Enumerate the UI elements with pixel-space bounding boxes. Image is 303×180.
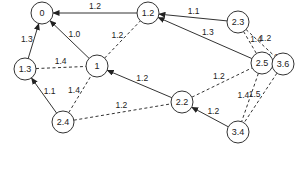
node-label: 0 bbox=[39, 8, 44, 18]
edge-1-to-0 bbox=[50, 21, 89, 59]
edge-weight-label: 1.5 bbox=[249, 89, 261, 99]
node-2.2: 2.2 bbox=[171, 91, 193, 113]
node-label: 3.6 bbox=[277, 59, 290, 69]
node-2.3: 2.3 bbox=[227, 11, 249, 33]
edge-weight-label: 1.2 bbox=[115, 100, 127, 110]
node-0: 0 bbox=[31, 2, 53, 24]
edge-weight-label: 1.1 bbox=[44, 86, 56, 96]
edge-weight-label: 1.4 bbox=[68, 85, 80, 95]
edge-1.3-to-1 bbox=[36, 66, 86, 68]
edge-weight-label: 1.2 bbox=[207, 106, 219, 116]
node-2.5: 2.5 bbox=[251, 52, 273, 74]
network-graph: 1.21.11.31.01.21.41.31.41.21.11.11.41.21… bbox=[0, 0, 303, 180]
node-label: 2.5 bbox=[256, 58, 269, 68]
edge-weight-label: 1.2 bbox=[136, 73, 148, 83]
edge-weight-label: 1.2 bbox=[259, 33, 271, 43]
edge-weight-label: 1.4 bbox=[55, 56, 67, 66]
node-2.4: 2.4 bbox=[52, 111, 74, 133]
edge-weight-label: 1.2 bbox=[213, 71, 225, 81]
node-3.4: 3.4 bbox=[227, 121, 249, 143]
edge-weight-label: 1.0 bbox=[68, 29, 80, 39]
edge-weight-label: 1.2 bbox=[89, 1, 101, 11]
edge-weight-label: 1.1 bbox=[188, 6, 200, 16]
edge-weight-label: 1.3 bbox=[202, 27, 214, 37]
node-1.3: 1.3 bbox=[14, 58, 36, 80]
node-3.6: 3.6 bbox=[272, 53, 294, 75]
node-label: 2.4 bbox=[57, 117, 70, 127]
node-label: 1 bbox=[94, 61, 99, 71]
edge-weight-label: 1.2 bbox=[112, 30, 124, 40]
node-label: 1.2 bbox=[142, 8, 155, 18]
node-1.2: 1.2 bbox=[137, 2, 159, 24]
node-label: 2.2 bbox=[176, 97, 189, 107]
node-label: 3.4 bbox=[232, 127, 245, 137]
nodes-layer: 01.22.31.312.53.62.42.23.4 bbox=[14, 2, 294, 143]
node-label: 2.3 bbox=[232, 17, 245, 27]
node-1: 1 bbox=[86, 55, 108, 77]
node-label: 1.3 bbox=[19, 64, 32, 74]
edge-weight-label: 1.3 bbox=[21, 34, 33, 44]
